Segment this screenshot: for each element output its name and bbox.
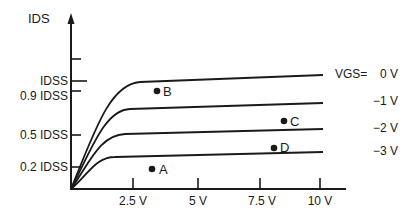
- point-c-label: C: [290, 114, 299, 129]
- curve-label-0v: 0 V: [380, 67, 398, 81]
- curve-label-m1v: −1 V: [373, 94, 398, 108]
- curve-label-m3v: −3 V: [373, 144, 398, 158]
- ytick-label-0.5: 0.5 IDSS: [20, 128, 68, 142]
- point-b-dot: [154, 88, 161, 95]
- point-b-label: B: [163, 84, 172, 99]
- ytick-label-idss: IDSS: [40, 74, 68, 88]
- ytick-label-0.9: 0.9 IDSS: [20, 89, 68, 103]
- curve-vgs-m3: [71, 152, 323, 189]
- xtick-label-10: 10 V: [308, 194, 333, 208]
- point-a-dot: [149, 166, 156, 173]
- point-d-dot: [271, 145, 278, 152]
- curve-vgs-m2: [71, 129, 323, 189]
- curve-label-m2v: −2 V: [373, 121, 398, 135]
- xtick-label-2.5: 2.5 V: [119, 194, 147, 208]
- y-axis-arrow-icon: [68, 13, 75, 24]
- point-c-dot: [281, 118, 288, 125]
- y-axis-label: IDS: [28, 11, 50, 26]
- xtick-label-7.5: 7.5 V: [248, 194, 276, 208]
- point-a-label: A: [159, 162, 168, 177]
- ytick-label-0.2: 0.2 IDSS: [20, 160, 68, 174]
- xtick-label-5: 5 V: [189, 194, 207, 208]
- vgs-title-label: VGS=: [335, 67, 367, 81]
- point-d-label: D: [280, 140, 289, 155]
- jfet-characteristics-diagram: A B C D IDS IDSS 0.9 IDSS 0.5 IDSS 0.2 I…: [0, 0, 417, 221]
